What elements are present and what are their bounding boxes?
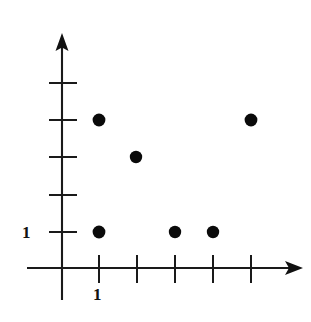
- axes-group: [27, 40, 296, 300]
- data-point: [207, 226, 219, 238]
- x-axis-unit-label: 1: [93, 286, 102, 303]
- data-point: [130, 151, 142, 163]
- data-point: [245, 114, 258, 127]
- data-point: [93, 114, 106, 127]
- plot-canvas: [0, 0, 311, 322]
- data-point: [169, 226, 181, 238]
- scatter-plot-figure: 1 1: [0, 0, 311, 322]
- y-axis-unit-label: 1: [22, 224, 31, 241]
- data-points-group: [93, 114, 258, 239]
- data-point: [93, 226, 106, 239]
